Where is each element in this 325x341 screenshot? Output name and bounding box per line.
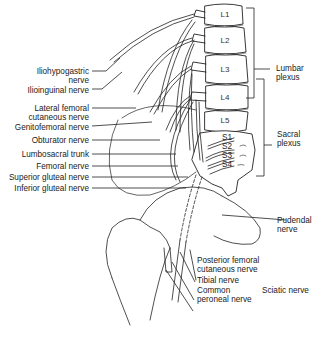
label-posterior-femoral-cutaneous-nerve: Posterior femoral cutaneous nerve <box>197 256 259 274</box>
sacral-root-s1-label: S1 <box>222 133 232 142</box>
label-femoral-nerve: Femoral nerve <box>36 162 89 171</box>
label-superior-gluteal-nerve: Superior gluteal nerve <box>9 173 89 182</box>
label-tibial-nerve: Tibial nerve <box>197 276 239 285</box>
label-lateral-femoral-cutaneous-nerve: Lateral femoral cutaneous nerve <box>28 104 89 122</box>
label-sacral-plexus: Sacral plexus <box>277 130 301 148</box>
ilium <box>109 106 196 196</box>
label-lumbar-plexus: Lumbar plexus <box>276 64 304 82</box>
label-genitofemoral-nerve: Genitofemoral nerve <box>15 123 89 132</box>
label-inferior-gluteal-nerve: Inferior gluteal nerve <box>14 184 89 193</box>
vertebra-l1-label: L1 <box>217 10 233 19</box>
label-iliohypogastric-nerve: Iliohypogastric nerve <box>37 67 89 85</box>
lumbosacral-plexus-diagram: L1 L2 L3 L4 L5 S1 S2 S3 S4 Iliohypogastr… <box>0 0 325 341</box>
vertebra-l4-label: L4 <box>217 93 233 102</box>
sacral-root-s2-label: S2 <box>222 142 232 151</box>
vertebra-l3-label: L3 <box>217 65 233 74</box>
label-common-peroneal-nerve: Common peroneal nerve <box>197 286 252 304</box>
vertebra-l2-label: L2 <box>217 36 233 45</box>
sacral-root-s4-label: S4 <box>222 160 232 169</box>
sacral-root-s3-label: S3 <box>222 151 232 160</box>
vertebra-l5-label: L5 <box>217 116 233 125</box>
lumbar-nerves <box>110 14 203 182</box>
label-sciatic-nerve: Sciatic nerve <box>262 286 309 295</box>
label-pudendal-nerve: Pudendal nerve <box>277 216 312 234</box>
label-ilioinguinal-nerve: Ilioinguinal nerve <box>28 86 89 95</box>
label-obturator-nerve: Obturator nerve <box>32 136 89 145</box>
label-lumbosacral-trunk: Lumbosacral trunk <box>22 150 89 159</box>
